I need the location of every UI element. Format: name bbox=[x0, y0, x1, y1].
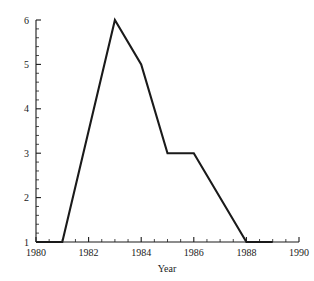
y-axis-tick-label: 1 bbox=[24, 237, 29, 248]
x-axis-tick-label: 1980 bbox=[26, 247, 46, 258]
y-axis-tick-label: 4 bbox=[24, 103, 29, 114]
y-axis-tick-label: 3 bbox=[24, 148, 29, 159]
chart-container: 123456 198019821984198619881990 Year bbox=[0, 0, 314, 281]
x-axis-tick-label: 1982 bbox=[79, 247, 99, 258]
x-axis-tick-label: 1986 bbox=[184, 247, 204, 258]
y-axis-tick-label: 5 bbox=[24, 59, 29, 70]
chart-background bbox=[0, 0, 314, 281]
x-axis-tick-label: 1990 bbox=[289, 247, 309, 258]
x-axis-tick-label: 1988 bbox=[236, 247, 256, 258]
x-axis-tick-label: 1984 bbox=[131, 247, 151, 258]
y-axis-tick-label: 2 bbox=[24, 192, 29, 203]
line-chart-plot: 123456 198019821984198619881990 Year bbox=[0, 0, 314, 281]
x-axis-title: Year bbox=[158, 263, 177, 274]
y-axis-tick-label: 6 bbox=[24, 15, 29, 26]
